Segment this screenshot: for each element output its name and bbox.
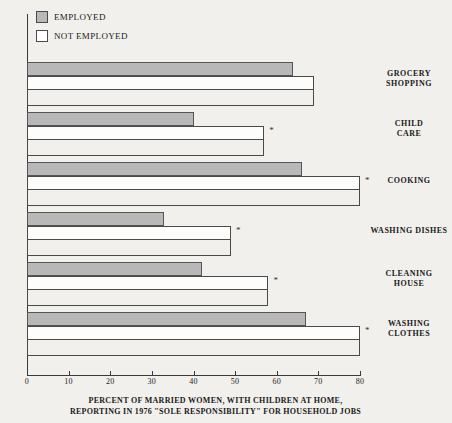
category-label-line: Washing [360, 319, 452, 329]
category-label-line: Grocery [360, 69, 452, 79]
tick-label: 80 [356, 377, 365, 386]
bar-group: *Cooking [27, 162, 431, 212]
tick-label: 70 [314, 377, 323, 386]
tick-mark [110, 371, 111, 376]
bar-track-employed [27, 212, 431, 226]
legend-label-not-employed: Not Employed [54, 31, 128, 41]
category-label-line: Cleaning [360, 269, 452, 279]
tick-mark [69, 371, 70, 376]
bar-not-employed[interactable] [27, 326, 360, 340]
bar-not-employed[interactable] [27, 226, 231, 240]
bar-not-employed[interactable] [27, 76, 314, 90]
bar-group: *Washing Dishes [27, 212, 431, 262]
tick-mark [27, 371, 28, 376]
bar-employed[interactable] [27, 112, 194, 126]
category-label-line: Shopping [360, 79, 452, 89]
bar-groups: GroceryShopping*ChildCare*Cooking*Washin… [27, 62, 431, 362]
x-axis-ticks: 01020304050607080 [27, 376, 367, 398]
tick-label: 20 [106, 377, 115, 386]
tick-mark [152, 371, 153, 376]
category-label-line: Washing Dishes [360, 226, 452, 236]
category-label: GroceryShopping [360, 69, 452, 88]
bar-footer-box [27, 240, 231, 256]
tick-label: 60 [272, 377, 281, 386]
tick-mark [277, 371, 278, 376]
category-label: Washing Dishes [360, 226, 452, 236]
chart-caption: Percent of married women, with children … [0, 396, 431, 417]
bar-not-employed[interactable] [27, 126, 264, 140]
bar-footer [27, 140, 431, 156]
bar-footer [27, 290, 431, 306]
category-label-line: Child [360, 119, 452, 129]
tick-label: 0 [25, 377, 29, 386]
bar-footer [27, 90, 431, 106]
bar-group: GroceryShopping [27, 62, 431, 112]
tick-label: 50 [231, 377, 240, 386]
bar-group: *WashingClothes [27, 312, 431, 362]
legend-label-employed: Employed [54, 12, 106, 22]
category-label-line: Clothes [360, 329, 452, 339]
bar-footer [27, 240, 431, 256]
bar-footer [27, 340, 431, 356]
category-label: WashingClothes [360, 319, 452, 338]
category-label: CleaningHouse [360, 269, 452, 288]
bar-group: *CleaningHouse [27, 262, 431, 312]
tick-mark [318, 371, 319, 376]
legend-swatch-not-employed [36, 30, 48, 42]
chart-legend: Employed Not Employed [36, 8, 216, 46]
bar-employed[interactable] [27, 212, 164, 226]
bar-track-employed [27, 162, 431, 176]
caption-line-2: reporting in 1976 "sole responsibility" … [0, 407, 431, 418]
bar-footer-box [27, 140, 264, 156]
legend-swatch-employed [36, 11, 48, 23]
bar-employed[interactable] [27, 312, 306, 326]
bar-employed[interactable] [27, 162, 302, 176]
bar-footer-box [27, 90, 314, 106]
bar-employed[interactable] [27, 62, 293, 76]
bar-footer-box [27, 340, 360, 356]
category-label-line: Care [360, 129, 452, 139]
bar-employed[interactable] [27, 262, 202, 276]
category-label-line: Cooking [360, 176, 452, 186]
tick-mark [194, 371, 195, 376]
tick-mark [360, 371, 361, 376]
tick-label: 30 [148, 377, 157, 386]
category-label: Cooking [360, 176, 452, 186]
caption-line-1: Percent of married women, with children … [0, 396, 431, 407]
bar-footer-box [27, 290, 268, 306]
bar-footer [27, 190, 431, 206]
bar-not-employed[interactable] [27, 176, 360, 190]
tick-label: 40 [189, 377, 198, 386]
bar-footer-box [27, 190, 360, 206]
category-label: ChildCare [360, 119, 452, 138]
bar-annotation-asterisk: * [273, 276, 278, 285]
legend-item-not-employed[interactable]: Not Employed [36, 27, 216, 44]
tick-label: 10 [64, 377, 73, 386]
bar-group: *ChildCare [27, 112, 431, 162]
category-label-line: House [360, 279, 452, 289]
legend-item-employed[interactable]: Employed [36, 8, 216, 25]
tick-mark [235, 371, 236, 376]
bar-annotation-asterisk: * [236, 226, 241, 235]
bar-annotation-asterisk: * [269, 126, 274, 135]
bar-not-employed[interactable] [27, 276, 268, 290]
